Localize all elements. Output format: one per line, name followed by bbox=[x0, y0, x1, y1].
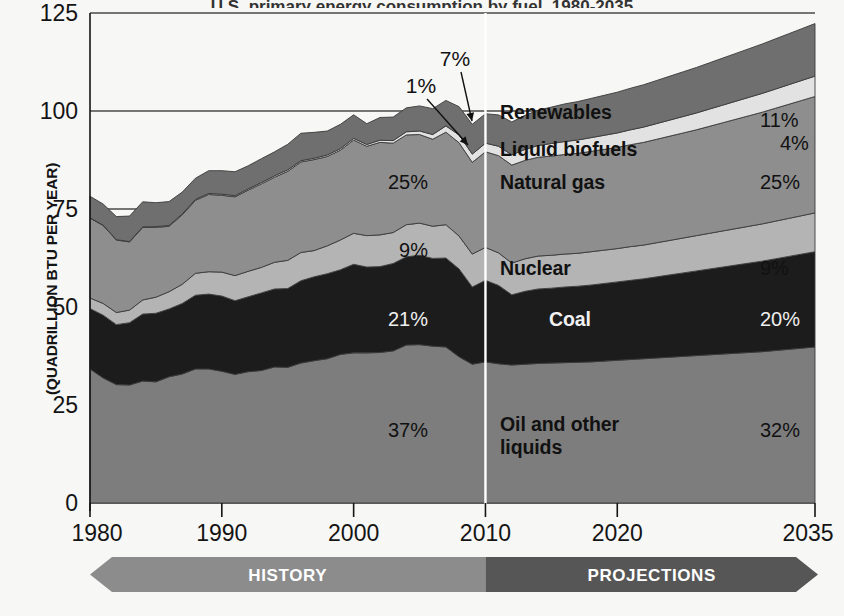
pct-2035-renewables: 11% bbox=[760, 109, 799, 131]
series-label-natural-gas: Natural gas bbox=[500, 171, 605, 193]
pct-2035-liquid-biofuels: 4% bbox=[780, 132, 809, 154]
x-tick-label-2010: 2010 bbox=[460, 520, 511, 546]
x-tick-label-2035: 2035 bbox=[782, 520, 833, 546]
callout-renewables-7pct-text: 7% bbox=[440, 47, 470, 70]
x-tick-label-2020: 2020 bbox=[592, 520, 643, 546]
pct-2010-coal: 21% bbox=[388, 308, 428, 330]
y-tick-label-0: 0 bbox=[65, 490, 78, 516]
series-label-coal: Coal bbox=[549, 308, 591, 330]
pct-2035-natural-gas: 25% bbox=[760, 171, 800, 193]
y-tick-label-100: 100 bbox=[40, 98, 78, 124]
y-tick-label-25: 25 bbox=[52, 392, 78, 418]
area-series-group bbox=[90, 24, 815, 503]
y-tick-labels: 0255075100125 bbox=[40, 0, 78, 516]
pct-2035-coal: 20% bbox=[760, 308, 800, 330]
pct-2010-nuclear: 9% bbox=[399, 239, 428, 261]
series-label-renewables: Renewables bbox=[500, 101, 612, 123]
y-tick-label-125: 125 bbox=[40, 0, 78, 26]
x-tick-label-2000: 2000 bbox=[328, 520, 379, 546]
pct-2035-oil-and-other-liquids: 32% bbox=[760, 419, 800, 441]
x-tick-labels: 198019902000201020202035 bbox=[71, 520, 833, 546]
chart-figure: U.S. primary energy consumption by fuel,… bbox=[0, 0, 844, 616]
x-tick-label-1980: 1980 bbox=[71, 520, 122, 546]
series-label-nuclear: Nuclear bbox=[500, 257, 571, 279]
callout-liquid-biofuels-1pct-text: 1% bbox=[406, 74, 436, 97]
stacked-area-chart: 0255075100125 198019902000201020202035 7… bbox=[0, 0, 844, 616]
history-projections-band: HISTORYPROJECTIONS bbox=[90, 557, 818, 592]
y-tick-label-50: 50 bbox=[52, 294, 78, 320]
pct-2035-nuclear: 9% bbox=[760, 257, 789, 279]
series-label-liquid-biofuels: Liquid biofuels bbox=[500, 138, 637, 160]
history-band-label: HISTORY bbox=[248, 566, 327, 585]
projections-band-label: PROJECTIONS bbox=[587, 566, 715, 585]
x-tick-label-1990: 1990 bbox=[196, 520, 247, 546]
pct-2010-oil-and-other-liquids: 37% bbox=[388, 419, 428, 441]
pct-2010-natural-gas: 25% bbox=[388, 171, 428, 193]
y-tick-label-75: 75 bbox=[52, 196, 78, 222]
